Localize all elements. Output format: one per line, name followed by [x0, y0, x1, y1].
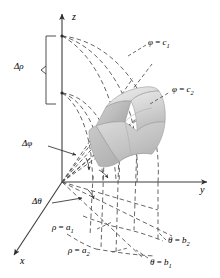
phi-c2-operator: = [177, 84, 187, 94]
rho-a1-operator: = [56, 222, 66, 232]
label-phi-equals-c2: φ = c2 [172, 85, 194, 96]
label-rho-equals-a2: ρ = a2 [68, 246, 90, 257]
ground-label-leaders [97, 222, 166, 258]
phi-c1-subscript: 1 [167, 42, 170, 49]
ground-arc-a1 [112, 226, 163, 241]
label-theta-equals-b1: θ = b1 [150, 258, 172, 269]
phi-c2-subscript: 2 [191, 89, 194, 96]
leader-rho-a1 [97, 222, 112, 229]
axis-label-y: y [200, 185, 204, 195]
spherical-coordinates-diagram: z y x Δρ Δφ Δθ φ = c1 φ = c2 ρ = a1 ρ = … [0, 0, 220, 278]
axis-label-z: z [72, 12, 76, 22]
axis-x [14, 182, 62, 255]
phi-c1-operator: = [153, 37, 163, 47]
theta-b2-subscript: 2 [187, 240, 190, 247]
label-phi-equals-c1: φ = c1 [148, 38, 170, 49]
theta-b2-operator: = [172, 235, 182, 245]
label-delta-theta: Δθ [32, 197, 42, 206]
rho-a2-subscript: 2 [86, 250, 89, 257]
delta-rho-brace [41, 36, 56, 104]
drop-line-1 [116, 150, 119, 253]
label-rho-equals-a1: ρ = a1 [52, 223, 74, 234]
leader-rho-a2 [112, 248, 128, 252]
rho-a1-subscript: 1 [70, 227, 73, 234]
volume-element-solid [89, 87, 165, 167]
leader-theta-b1 [136, 250, 148, 258]
label-theta-equals-b2: θ = b2 [168, 236, 190, 247]
axis-label-x: x [20, 256, 24, 266]
rho-a2-operator: = [72, 245, 82, 255]
drop-line-5 [90, 176, 93, 236]
leader-theta-b2 [158, 232, 166, 240]
theta-b1-subscript: 1 [169, 262, 172, 269]
ground-arc-a2 [96, 249, 155, 256]
theta-b1-operator: = [154, 257, 164, 267]
leader-phi-c1 [128, 45, 146, 56]
label-delta-phi: Δφ [22, 139, 32, 148]
delta-theta-pointer [52, 198, 82, 203]
label-delta-rho: Δρ [14, 62, 24, 71]
